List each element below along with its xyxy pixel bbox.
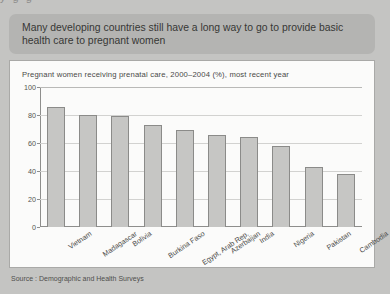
bar-madagascar [79,115,97,227]
y-axis-tick-label: 80 [28,111,40,120]
x-axis-label-vietnam: Vietnam [67,229,94,251]
bar-cambodia [337,174,355,227]
figure-header-banner: Many developing countries still have a l… [9,14,375,54]
x-axis-label-cambodia: Cambodia [357,229,389,255]
bar-pakistan [305,167,323,227]
y-axis-tick-label: 60 [28,139,40,148]
x-axis-label-nigeria: Nigeria [291,229,315,249]
bar-azerbaijan [208,135,226,227]
source-note: Source : Demographic and Health Surveys [11,275,144,282]
x-axis-label-burkina-faso: Burkina Faso [166,229,206,260]
bar-india [240,137,258,227]
x-axis-label-pakistan: Pakistan [324,229,352,252]
chart-subtitle: Pregnant women receiving prenatal care, … [22,70,289,79]
bar-series [40,87,362,227]
page-bleed-artifact: y g g [0,0,386,12]
x-axis-labels: VietnamMadagascarBoliviaBurkina FasoEgyp… [40,229,362,267]
y-axis-tick-label: 20 [28,195,40,204]
y-axis-tick-label: 0 [32,223,40,232]
x-axis-label-india: India [258,229,276,245]
bar-nigeria [272,146,290,227]
bleed-text: y g g [0,0,34,3]
bar-vietnam [47,107,65,227]
y-axis-tick-label: 100 [24,83,40,92]
figure-headline: Many developing countries still have a l… [22,21,362,48]
bar-burkina-faso [144,125,162,227]
y-axis-tick-label: 40 [28,167,40,176]
bar-egypt-arab-rep [176,130,194,227]
chart-panel: Pregnant women receiving prenatal care, … [9,60,375,268]
bar-bolivia [111,116,129,227]
plot-area: 020406080100 [40,87,362,227]
